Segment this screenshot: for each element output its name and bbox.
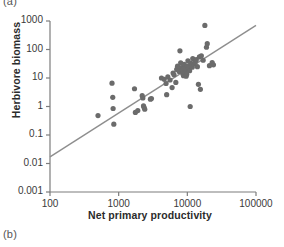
- y-tick-label: 0.001: [0, 185, 43, 196]
- y-tick-label: 10: [0, 71, 43, 82]
- data-point: [211, 62, 216, 67]
- regression-line: [50, 25, 256, 157]
- x-tick-label: 100: [20, 198, 80, 209]
- x-tick-label: 1000: [89, 198, 149, 209]
- data-point: [111, 122, 116, 127]
- data-point: [140, 95, 145, 100]
- data-point: [202, 23, 207, 28]
- data-point: [173, 80, 178, 85]
- data-point: [188, 104, 193, 109]
- data-point: [205, 41, 210, 46]
- data-point: [95, 113, 100, 118]
- data-point: [111, 106, 116, 111]
- data-point: [171, 72, 176, 77]
- y-tick-label: 0.1: [0, 128, 43, 139]
- data-point: [196, 82, 201, 87]
- data-point: [201, 58, 206, 63]
- panel-label-b: (b): [3, 228, 17, 240]
- x-tick-label: 100000: [226, 198, 284, 209]
- data-point: [195, 64, 200, 69]
- y-tick-label: 0.01: [0, 157, 43, 168]
- data-point: [177, 48, 182, 53]
- y-tick-label: 1000: [0, 14, 43, 25]
- data-point: [135, 108, 140, 113]
- data-point: [149, 96, 154, 101]
- x-axis-label: Net primary productivity: [40, 209, 260, 221]
- x-tick-label: 10000: [157, 198, 217, 209]
- axis-spine: [50, 21, 256, 192]
- y-tick-label: 1: [0, 100, 43, 111]
- data-point: [163, 81, 168, 86]
- data-point: [198, 87, 203, 92]
- y-axis-label: Herbivore biomass: [10, 10, 22, 130]
- data-point: [109, 81, 114, 86]
- data-point: [164, 92, 169, 97]
- data-point: [132, 86, 137, 91]
- data-point: [142, 107, 147, 112]
- data-point: [110, 95, 115, 100]
- y-tick-label: 100: [0, 43, 43, 54]
- data-point: [170, 85, 175, 90]
- data-point: [199, 53, 204, 58]
- scatter-plot: Herbivore biomass Net primary productivi…: [0, 0, 284, 247]
- data-point: [167, 77, 172, 82]
